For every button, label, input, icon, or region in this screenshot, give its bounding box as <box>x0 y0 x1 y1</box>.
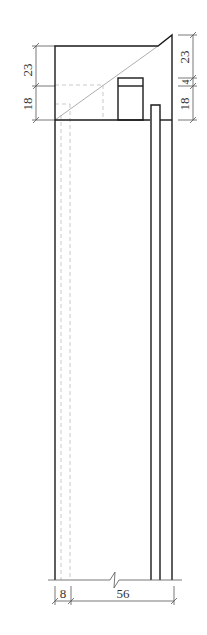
upper-box <box>118 78 143 120</box>
vertical-post <box>151 105 160 580</box>
bottom-dim-right: 56 <box>117 586 131 601</box>
left-dim-upper: 23 <box>20 64 35 77</box>
right-dim-middle: 4 <box>180 80 191 85</box>
ground-line <box>48 572 182 588</box>
main-outline <box>55 35 172 580</box>
right-dim-upper: 23 <box>177 51 192 64</box>
hidden-lines <box>55 85 103 580</box>
section-drawing: 23 18 23 4 18 <box>0 0 207 635</box>
left-dim-lower: 18 <box>20 98 35 111</box>
right-dim-lower: 18 <box>177 98 192 111</box>
bottom-dimension-chain <box>52 586 177 605</box>
bottom-dim-left: 8 <box>60 586 67 601</box>
left-dimension-chain <box>32 43 55 123</box>
